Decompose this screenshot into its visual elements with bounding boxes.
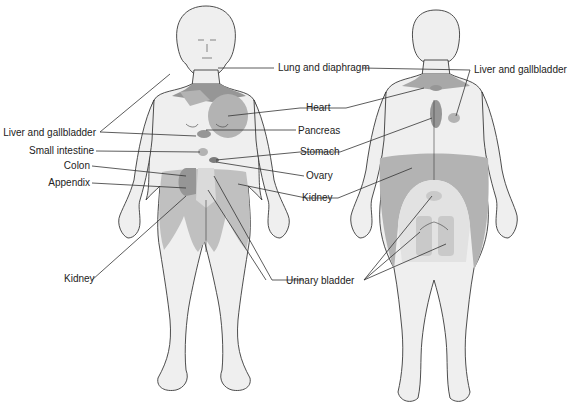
zone-colon bbox=[179, 168, 197, 196]
label-small-intestine: Small intestine bbox=[29, 145, 94, 157]
zone-pancreas bbox=[197, 130, 211, 138]
zone-gallbladder-back bbox=[448, 113, 460, 123]
zone-bladder-buttock-right bbox=[438, 216, 454, 256]
zone-liver-back bbox=[430, 85, 442, 91]
label-stomach: Stomach bbox=[300, 146, 339, 158]
label-kidney-right: Kidney bbox=[64, 273, 95, 285]
zone-bladder-buttock-left bbox=[416, 216, 432, 256]
label-heart: Heart bbox=[306, 102, 330, 114]
label-liver-and-gallbladder-back: Liver and gallbladder bbox=[474, 64, 567, 76]
zone-heart-back bbox=[430, 100, 442, 128]
label-lung-and-diaphragm: Lung and diaphragm bbox=[278, 62, 370, 74]
label-liver-and-gallbladder-front: Liver and gallbladder bbox=[3, 127, 96, 139]
zone-bladder-sacrum bbox=[426, 191, 442, 201]
label-colon: Colon bbox=[64, 160, 90, 172]
label-pancreas: Pancreas bbox=[298, 125, 340, 137]
label-kidney-left: Kidney bbox=[302, 192, 333, 204]
label-appendix: Appendix bbox=[48, 177, 90, 189]
label-urinary-bladder: Urinary bladder bbox=[286, 275, 354, 287]
label-ovary: Ovary bbox=[306, 170, 333, 182]
